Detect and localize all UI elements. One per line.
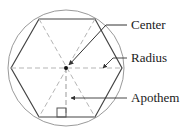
- center-label: Center: [131, 17, 166, 32]
- right-angle-marker: [57, 108, 66, 117]
- hexagon-diagram: Center Radius Apothem: [0, 0, 186, 131]
- apothem-label: Apothem: [131, 90, 179, 105]
- radius-label: Radius: [131, 50, 167, 65]
- center-point: [64, 66, 68, 70]
- center-leader-line: [69, 25, 127, 65]
